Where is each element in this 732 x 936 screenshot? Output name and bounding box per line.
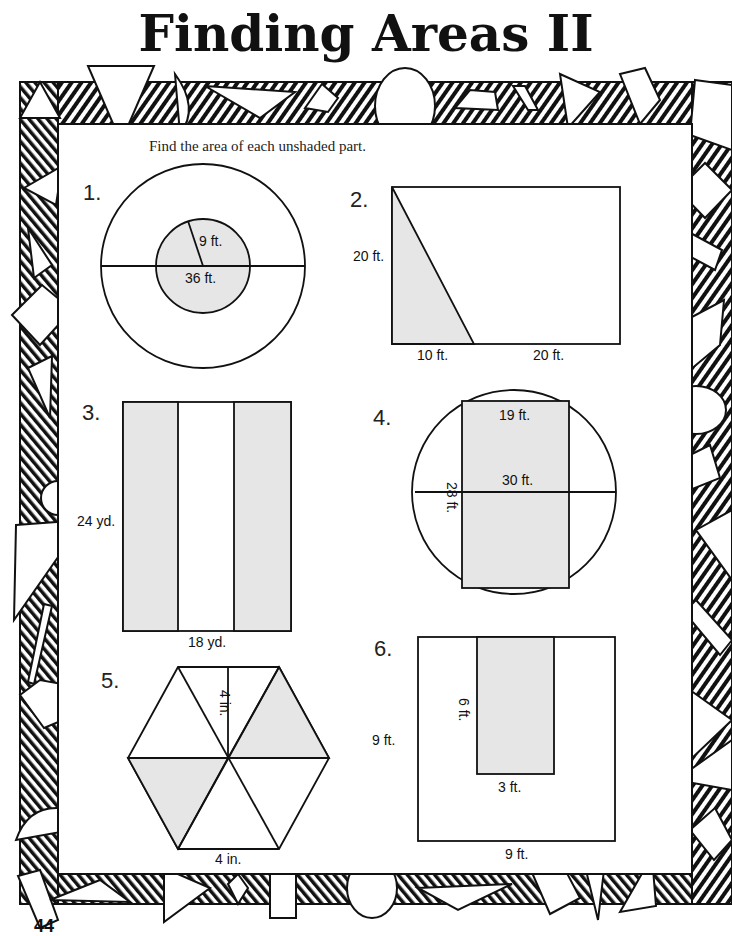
page-number: 44 xyxy=(34,916,54,936)
label-2-height: 20 ft. xyxy=(353,248,384,264)
figure-3-rectangle-strips xyxy=(123,402,291,631)
label-5-side: 4 in. xyxy=(215,851,241,867)
problem-1-number: 1. xyxy=(83,180,101,206)
label-4-rect-width: 19 ft. xyxy=(499,407,530,423)
figure-6-square-rectangle xyxy=(418,637,615,841)
label-6-rect-height: 6 ft. xyxy=(456,698,472,721)
figure-1-concentric-circles xyxy=(101,164,305,368)
label-3-height: 24 yd. xyxy=(77,513,115,529)
label-6-square-width: 9 ft. xyxy=(505,846,528,862)
label-2-base-right: 20 ft. xyxy=(533,347,564,363)
label-5-height: 4 in. xyxy=(217,690,233,716)
label-4-rect-height: 28 ft. xyxy=(444,482,460,513)
label-1-radius: 9 ft. xyxy=(199,233,222,249)
label-6-rect-width: 3 ft. xyxy=(498,779,521,795)
label-3-width: 18 yd. xyxy=(188,634,226,650)
label-4-diameter: 30 ft. xyxy=(502,472,533,488)
problem-5-number: 5. xyxy=(101,668,119,694)
problem-6-number: 6. xyxy=(374,636,392,662)
problem-4-number: 4. xyxy=(373,405,391,431)
label-1-diameter: 36 ft. xyxy=(185,270,216,286)
problem-2-number: 2. xyxy=(350,187,368,213)
label-6-square-height: 9 ft. xyxy=(372,732,395,748)
problem-3-number: 3. xyxy=(82,400,100,426)
label-2-base-left: 10 ft. xyxy=(417,347,448,363)
figure-2-rectangle-triangle xyxy=(392,187,620,344)
